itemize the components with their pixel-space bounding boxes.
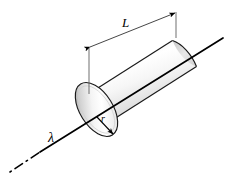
length-dimension-arrow	[90, 13, 175, 47]
axis-dashed-tail	[10, 152, 40, 172]
radius-label: r	[101, 113, 105, 124]
axis-solid-line	[40, 38, 223, 152]
linear-charge-density-label: λ	[47, 130, 54, 145]
charge-axis-line	[10, 38, 223, 172]
figure-container: r L λ	[0, 0, 232, 180]
length-label: L	[121, 15, 129, 30]
cylinder-diagram: r L λ	[0, 0, 232, 180]
